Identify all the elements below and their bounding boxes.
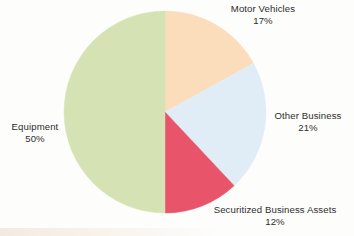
slice-label-equipment-percent: 50% <box>2 133 68 145</box>
slice-label-motor-vehicles: Motor Vehicles 17% <box>201 3 325 28</box>
pie-slice-group <box>64 11 266 213</box>
slice-label-motor-vehicles-name: Motor Vehicles <box>231 3 295 14</box>
slice-label-securitized-business-assets-percent: 12% <box>196 216 354 228</box>
pie-chart-figure: Motor Vehicles 17% Other Business 21% Se… <box>0 0 354 236</box>
slice-label-motor-vehicles-percent: 17% <box>201 15 325 27</box>
slice-label-securitized-business-assets: Securitized Business Assets 12% <box>196 204 354 229</box>
slice-label-other-business-percent: 21% <box>262 122 354 134</box>
slice-label-equipment: Equipment 50% <box>2 121 68 146</box>
slice-label-securitized-business-assets-name: Securitized Business Assets <box>214 204 337 215</box>
slice-label-other-business-name: Other Business <box>275 110 342 121</box>
slice-label-other-business: Other Business 21% <box>262 110 354 135</box>
pie-slice-equipment <box>64 11 165 213</box>
slice-label-equipment-name: Equipment <box>12 121 59 132</box>
